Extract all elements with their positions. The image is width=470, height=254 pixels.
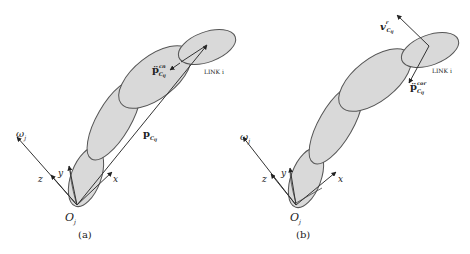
y-label-b: y (280, 168, 287, 178)
z-label-b: z (261, 174, 267, 184)
z-label-a: z (37, 174, 43, 184)
y-label-a: y (57, 168, 64, 178)
panel-a: ωj z y x Oj pCij p̈cnCij LINK i (a) (16, 23, 240, 240)
panel-b: ωj z y x Oj vrCij p̈corCij LINK i (b) (240, 15, 463, 240)
origin-label-a: Oj (65, 211, 76, 226)
link-chain-b (281, 26, 463, 213)
x-label-b: x (338, 174, 343, 184)
origin-label-b: Oj (290, 211, 301, 226)
link-i-label-b: LINK i (432, 67, 452, 74)
caption-a: (a) (78, 229, 92, 240)
coriolis-accel-label-b: p̈corCij (410, 80, 426, 95)
link-i-label-a: LINK i (204, 68, 224, 75)
robot-link-diagram: ωj z y x Oj pCij p̈cnCij LINK i (a) ωj z… (0, 0, 470, 254)
caption-b: (b) (296, 229, 310, 240)
omega-label-b: ωj (240, 131, 250, 145)
position-vector-label-a: pCij (143, 128, 158, 142)
omega-label-a: ωj (16, 128, 26, 142)
x-label-a: x (113, 174, 118, 184)
relative-velocity-label-b: vrCij (380, 19, 394, 34)
link-chain-a (61, 23, 240, 212)
